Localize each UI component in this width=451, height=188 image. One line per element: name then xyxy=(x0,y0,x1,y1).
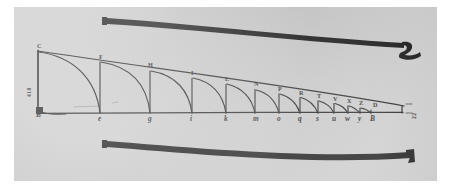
construction-drawing xyxy=(36,51,412,115)
bottom-rule-left-cap xyxy=(102,140,107,148)
bottom-rule-band xyxy=(102,140,415,163)
bottom-rule-hook-terminal xyxy=(406,149,415,163)
top-rule-body xyxy=(107,18,404,48)
top-rule-band xyxy=(102,17,421,60)
arc-H-i xyxy=(151,71,192,113)
top-rule-left-cap xyxy=(102,17,107,25)
arc-L-m xyxy=(227,84,255,113)
arc-P-q xyxy=(280,94,300,113)
plate-scratch-1 xyxy=(74,106,98,107)
arc-I-k xyxy=(193,78,226,113)
arc-T-u xyxy=(319,101,334,113)
figure-artwork xyxy=(14,7,437,181)
top-rule-hook-terminal xyxy=(399,42,421,60)
plate-scratch-2 xyxy=(112,102,118,103)
arc-C-e xyxy=(39,52,100,113)
arc-F-g xyxy=(101,62,150,113)
right-margin-plate-number: 22 xyxy=(411,113,417,119)
arc-V-w xyxy=(335,104,348,114)
arc-N-o xyxy=(256,90,279,113)
bottom-rule-body xyxy=(107,141,411,160)
engraved-plate: C F H I L N P R T V X Z D B e g i k m o … xyxy=(14,7,437,181)
arc-R-s xyxy=(301,98,318,114)
quarter-arc-family xyxy=(39,52,371,113)
left-margin-folio-number: 418 xyxy=(26,87,32,97)
origin-block xyxy=(36,107,43,114)
